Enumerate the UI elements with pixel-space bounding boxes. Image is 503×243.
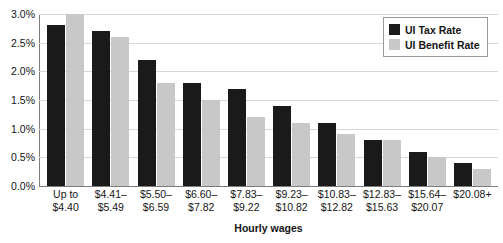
x-axis-tick-label: $4.41– $5.49	[88, 188, 133, 213]
y-axis-tick-label: 3.0%	[11, 8, 35, 20]
legend-item[interactable]: UI Benefit Rate	[389, 37, 480, 52]
bar-ui-benefit-rate[interactable]	[383, 140, 401, 186]
y-axis-tick-label: 2.0%	[11, 65, 35, 77]
x-axis-tick-label: $9.23– $10.82	[269, 188, 314, 213]
bar-ui-tax-rate[interactable]	[273, 106, 291, 186]
bar-group	[43, 14, 88, 186]
legend-swatch-icon	[389, 24, 400, 35]
bar-ui-tax-rate[interactable]	[92, 31, 110, 186]
bar-ui-tax-rate[interactable]	[138, 60, 156, 186]
x-axis-baseline	[39, 186, 498, 187]
x-axis-labels: Up to $4.40$4.41– $5.49$5.50– $6.59$6.60…	[39, 188, 498, 213]
bar-ui-tax-rate[interactable]	[364, 140, 382, 186]
bar-group	[224, 14, 269, 186]
bar-ui-tax-rate[interactable]	[228, 89, 246, 186]
bar-ui-benefit-rate[interactable]	[111, 37, 129, 186]
x-axis-tick-label: $7.83– $9.22	[224, 188, 269, 213]
legend-item-label: UI Benefit Rate	[405, 39, 480, 51]
legend-item-label: UI Tax Rate	[405, 24, 461, 36]
bar-ui-benefit-rate[interactable]	[428, 157, 446, 186]
bar-ui-benefit-rate[interactable]	[292, 123, 310, 186]
bar-group	[133, 14, 178, 186]
bar-ui-tax-rate[interactable]	[318, 123, 336, 186]
chart-legend: UI Tax RateUI Benefit Rate	[383, 17, 488, 57]
bar-ui-benefit-rate[interactable]	[202, 100, 220, 186]
bar-ui-benefit-rate[interactable]	[66, 14, 84, 186]
y-axis-tick-label: 2.5%	[11, 37, 35, 49]
x-axis-tick-label: $6.60– $7.82	[179, 188, 224, 213]
bar-ui-benefit-rate[interactable]	[473, 169, 491, 186]
bar-ui-tax-rate[interactable]	[409, 152, 427, 186]
x-axis-tick-label: $5.50– $6.59	[133, 188, 178, 213]
bar-ui-tax-rate[interactable]	[454, 163, 472, 186]
y-axis-labels: 3.0%2.5%2.0%1.5%1.0%0.5%0.0%	[0, 0, 35, 243]
x-axis-tick-label: $10.83– $12.82	[314, 188, 359, 213]
y-axis-tick-label: 1.0%	[11, 123, 35, 135]
legend-swatch-icon	[389, 39, 400, 50]
bar-ui-benefit-rate[interactable]	[157, 83, 175, 186]
legend-item[interactable]: UI Tax Rate	[389, 22, 480, 37]
bar-ui-benefit-rate[interactable]	[337, 134, 355, 186]
y-axis-tick-label: 1.5%	[11, 94, 35, 106]
y-axis-tick-label: 0.5%	[11, 151, 35, 163]
bar-group	[179, 14, 224, 186]
x-axis-tick-label: $20.08+	[450, 188, 495, 213]
bar-group	[269, 14, 314, 186]
bar-ui-tax-rate[interactable]	[183, 83, 201, 186]
y-axis-tick-label: 0.0%	[11, 180, 35, 192]
x-axis-tick-label: $15.64– $20.07	[405, 188, 450, 213]
bar-chart: 3.0%2.5%2.0%1.5%1.0%0.5%0.0% Up to $4.40…	[0, 0, 503, 243]
x-axis-title: Hourly wages	[39, 222, 498, 234]
bar-group	[314, 14, 359, 186]
bar-ui-benefit-rate[interactable]	[247, 117, 265, 186]
x-axis-tick-label: $12.83– $15.63	[359, 188, 404, 213]
bar-ui-tax-rate[interactable]	[47, 25, 65, 186]
x-axis-tick-label: Up to $4.40	[43, 188, 88, 213]
bar-group	[88, 14, 133, 186]
